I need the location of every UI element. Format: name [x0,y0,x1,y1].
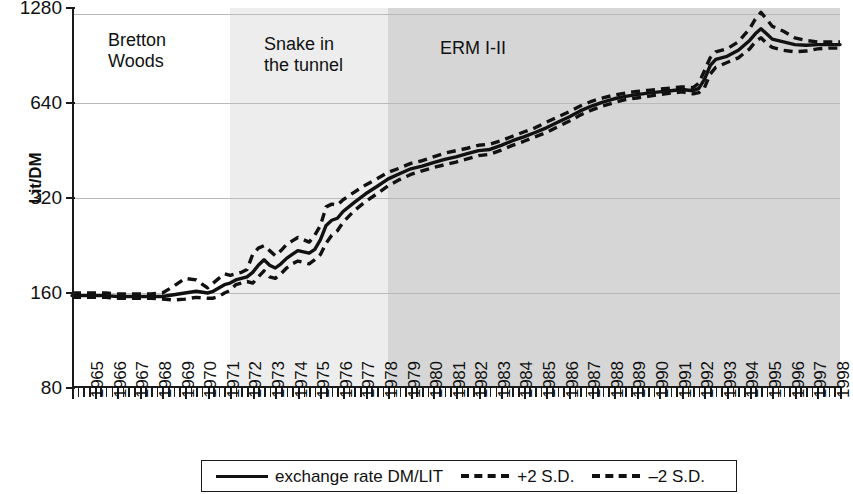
x-tick-label-1968: 1968 [157,361,174,398]
y-tick-label-80: 80 [0,378,62,397]
x-tick-label-1997: 1997 [812,361,829,398]
x-tick-label-1983: 1983 [496,361,513,398]
x-tick-major [72,388,74,399]
legend-swatch-dashed-icon [461,474,509,478]
x-tick-label-1975: 1975 [315,361,332,398]
y-tick-label-640: 640 [0,93,62,112]
y-tick-label-160: 160 [0,283,62,302]
series-line-minus-2sd [72,38,840,300]
region-label-line2: Woods [108,51,166,72]
x-tick-minor [83,388,85,397]
x-tick-label-1974: 1974 [293,361,310,398]
x-tick-label-1978: 1978 [383,361,400,398]
x-tick-label-1984: 1984 [518,361,535,398]
region-label-erm: ERM I-II [440,38,506,59]
y-axis-title: Lit/DM [26,118,46,238]
y-tick-640 [66,102,75,104]
region-label-line2: the tunnel [264,55,343,76]
x-tick-label-1971: 1971 [225,361,242,398]
x-tick-label-1995: 1995 [767,361,784,398]
legend-label: exchange rate DM/LIT [275,468,443,485]
x-tick-label-1981: 1981 [451,361,468,398]
x-tick-label-1967: 1967 [134,361,151,398]
region-label-snake: Snake in the tunnel [264,34,343,76]
x-tick-label-1993: 1993 [722,361,739,398]
x-tick-label-1972: 1972 [247,361,264,398]
x-tick-label-1979: 1979 [406,361,423,398]
x-tick-label-1987: 1987 [586,361,603,398]
legend-item-plus-2sd: +2 S.D. [443,468,574,485]
x-tick-label-1991: 1991 [677,361,694,398]
y-tick-label-1280: 1280 [0,0,62,17]
x-tick-label-1990: 1990 [654,361,671,398]
x-tick-label-1980: 1980 [428,361,445,398]
x-tick-label-1976: 1976 [338,361,355,398]
plot-area: Bretton Woods Snake in the tunnel ERM I-… [72,8,840,388]
legend-swatch-solid-icon [216,475,268,478]
legend-swatch-dashed-icon [592,474,640,478]
x-tick-label-1992: 1992 [699,361,716,398]
x-tick-label-1996: 1996 [790,361,807,398]
region-label-line1: Bretton [108,30,166,51]
x-tick-minor [78,388,80,397]
x-tick-label-1986: 1986 [564,361,581,398]
legend-item-exchange-rate: exchange rate DM/LIT [202,468,443,485]
x-tick-label-1970: 1970 [202,361,219,398]
y-tick-320 [66,197,75,199]
x-tick-label-1969: 1969 [180,361,197,398]
x-tick-label-1973: 1973 [270,361,287,398]
x-tick-label-1982: 1982 [473,361,490,398]
x-tick-label-1989: 1989 [631,361,648,398]
x-tick-label-1988: 1988 [609,361,626,398]
x-tick-label-1994: 1994 [744,361,761,398]
x-tick-label-1998: 1998 [835,361,852,398]
y-tick-160 [66,292,75,294]
region-label-line1: ERM I-II [440,38,506,59]
region-label-bretton-woods: Bretton Woods [108,30,166,72]
region-label-line1: Snake in [264,34,343,55]
legend-label: –2 S.D. [648,468,705,485]
x-tick-label-1985: 1985 [541,361,558,398]
x-tick-label-1977: 1977 [360,361,377,398]
legend-item-minus-2sd: –2 S.D. [574,468,705,485]
x-tick-label-1965: 1965 [89,361,106,398]
x-tick-label-1966: 1966 [112,361,129,398]
chart-legend: exchange rate DM/LIT +2 S.D. –2 S.D. [201,460,737,492]
legend-label: +2 S.D. [517,468,574,485]
y-tick-1280 [66,7,75,9]
series-paths [72,8,840,388]
